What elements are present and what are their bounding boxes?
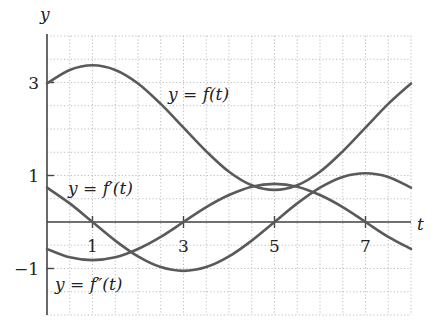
y-axis-label: y — [39, 4, 50, 24]
y-tick-label: −1 — [14, 259, 39, 279]
label-f-eq: y = — [167, 84, 203, 104]
x-tick-label: 5 — [269, 236, 280, 256]
y-tick-label: 1 — [28, 166, 39, 186]
x-tick-label: 1 — [87, 236, 98, 256]
label-fp-eq: y = — [67, 178, 103, 198]
function-derivative-chart: 135731−1 y t y = f(t) y = f′(t) y = f″(t… — [0, 0, 433, 327]
label-f: y = f(t) — [167, 84, 229, 104]
x-tick-label: 3 — [178, 236, 189, 256]
label-fpp-eq: y = — [54, 274, 90, 294]
label-f-double-prime: y = f″(t) — [54, 274, 122, 294]
t-axis-label: t — [417, 214, 424, 234]
label-fp-fn: f′(t) — [101, 178, 133, 198]
x-tick-label: 7 — [360, 236, 371, 256]
label-f-prime: y = f′(t) — [67, 178, 133, 198]
label-f-fn: f(t) — [201, 84, 229, 104]
label-fpp-fn: f″(t) — [88, 274, 123, 294]
y-tick-label: 3 — [28, 73, 39, 93]
